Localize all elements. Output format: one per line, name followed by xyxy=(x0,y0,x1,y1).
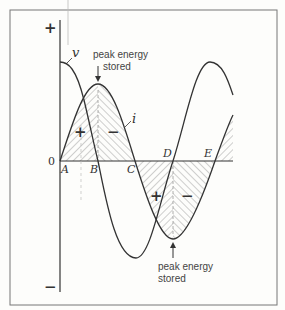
axis-plus-label: + xyxy=(44,19,57,37)
axis-minus-label: − xyxy=(44,278,57,296)
point-e-label: E xyxy=(203,147,212,160)
diagram-canvas: + − 0 A B C D E v i + − + − peak energy … xyxy=(0,0,285,310)
axis-zero-label: 0 xyxy=(48,155,55,168)
bottom-annotation-line2: stored xyxy=(158,273,186,284)
current-leader xyxy=(125,121,131,127)
arrow-bottom-head xyxy=(170,242,176,248)
sign-positive-1: + xyxy=(74,123,87,141)
bottom-annotation-line1: peak energy xyxy=(158,261,213,272)
point-c-label: C xyxy=(127,163,136,176)
point-d-label: D xyxy=(162,147,172,160)
point-a-label: A xyxy=(60,163,69,176)
sign-positive-2: + xyxy=(150,187,163,205)
current-label: i xyxy=(132,111,136,126)
arrow-top-head xyxy=(95,76,101,82)
voltage-leader xyxy=(66,58,72,64)
top-annotation-line2: stored xyxy=(103,61,131,72)
top-annotation-line1: peak energy xyxy=(93,49,148,60)
region-negative-2 xyxy=(173,161,215,239)
sign-negative-1: − xyxy=(107,123,120,141)
point-b-label: B xyxy=(89,163,98,176)
inductor-energy-diagram: + − 0 A B C D E v i + − + − peak energy … xyxy=(0,0,285,310)
voltage-label: v xyxy=(72,45,80,60)
sign-negative-2: − xyxy=(181,187,194,205)
